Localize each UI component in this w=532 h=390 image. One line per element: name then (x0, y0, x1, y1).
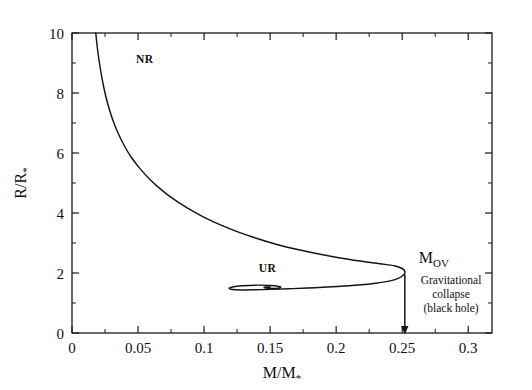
collapse-annotation-line: collapse (432, 288, 470, 301)
axes-layer (72, 33, 492, 333)
x-tick-label: 0.1 (195, 340, 214, 356)
x-tick-label: 0 (68, 340, 76, 356)
nr-region-label: NR (136, 53, 154, 65)
y-tick-label: 6 (57, 146, 65, 162)
x-tick-label: 0.3 (459, 340, 478, 356)
x-tick-label: 0.05 (125, 340, 151, 356)
curve-layer (96, 33, 405, 290)
figure-root: 00.050.10.150.20.250.30246810M/M*R/R*NRU… (0, 0, 532, 390)
mass-radius-curve (96, 33, 405, 290)
y-tick-label: 4 (57, 206, 65, 222)
x-tick-label: 0.25 (389, 340, 415, 356)
ur-region-label: UR (259, 262, 277, 274)
plot-frame (72, 33, 492, 333)
collapse-annotation-line: (black hole) (423, 302, 478, 315)
x-tick-label: 0.2 (327, 340, 346, 356)
label-layer: 00.050.10.150.20.250.30246810M/M*R/R*NRU… (12, 26, 481, 385)
y-tick-label: 10 (49, 26, 64, 42)
x-tick-label: 0.15 (257, 340, 283, 356)
y-axis-title-text: R/R* (12, 167, 32, 198)
mov-label: MOV (419, 249, 449, 270)
annotation-layer (401, 275, 408, 335)
y-tick-label: 0 (57, 326, 65, 342)
x-axis-title: M/M* (263, 364, 301, 384)
collapse-annotation-line: Gravitational (421, 274, 482, 286)
y-axis-title: R/R* (12, 167, 32, 198)
y-tick-label: 2 (57, 266, 65, 282)
mass-radius-plot: 00.050.10.150.20.250.30246810M/M*R/R*NRU… (0, 0, 532, 390)
y-tick-label: 8 (57, 86, 65, 102)
